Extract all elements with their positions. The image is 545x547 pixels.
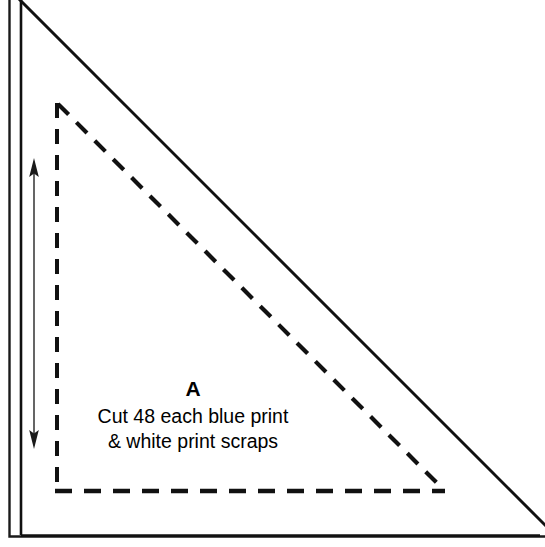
pattern-diagram-page: A Cut 48 each blue print & white print s… — [0, 0, 545, 547]
canvas-background — [0, 0, 545, 547]
quilt-template-drawing — [0, 0, 545, 547]
